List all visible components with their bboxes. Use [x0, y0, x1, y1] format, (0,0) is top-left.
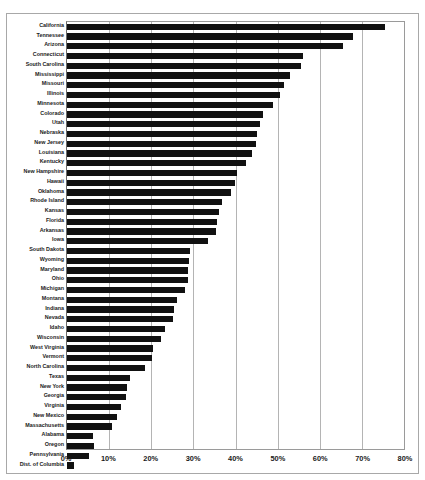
- x-axis-tick-label: 20%: [143, 454, 158, 463]
- bar: [67, 121, 260, 127]
- plot-wrapper: CaliforniaTennesseeArizonaConnecticutSou…: [7, 14, 418, 473]
- bar-row: Iowa: [67, 237, 404, 247]
- bar-row-label: California: [39, 21, 64, 31]
- bar-row-label: Mississippi: [35, 70, 64, 80]
- bar-row: Illinois: [67, 90, 404, 100]
- bar-row-label: Dist. of Columbia: [20, 460, 64, 470]
- bar-row: Michigan: [67, 285, 404, 295]
- bar-row: Idaho: [67, 324, 404, 334]
- bar-rows: CaliforniaTennesseeArizonaConnecticutSou…: [67, 22, 404, 449]
- bar-row: Massachusetts: [67, 422, 404, 432]
- bar-row: Oklahoma: [67, 188, 404, 198]
- bar-row: Virginia: [67, 402, 404, 412]
- bar-row: West Virginia: [67, 344, 404, 354]
- bar: [67, 82, 284, 88]
- bar: [67, 33, 353, 39]
- x-axis-tick-label: 30%: [186, 454, 201, 463]
- bar-row: Ohio: [67, 276, 404, 286]
- bar-row-label: Nevada: [45, 313, 64, 323]
- bar: [67, 267, 188, 273]
- bar-row-label: North Carolina: [27, 362, 64, 372]
- bar-row-label: New Mexico: [33, 411, 64, 421]
- bar-row-label: West Virginia: [30, 343, 64, 353]
- bar-row: Rhode Island: [67, 198, 404, 208]
- bar-row: Minnesota: [67, 100, 404, 110]
- bar-row-label: Pennsylvania: [30, 450, 64, 460]
- bar: [67, 423, 112, 429]
- bar-row: Kansas: [67, 207, 404, 217]
- bar-row-label: Texas: [49, 372, 64, 382]
- bar-row: Missouri: [67, 81, 404, 91]
- bar: [67, 258, 189, 264]
- bar-row-label: Tennessee: [37, 31, 64, 41]
- bar: [67, 150, 252, 156]
- bar-row: New Jersey: [67, 139, 404, 149]
- bar-row-label: Rhode Island: [30, 196, 64, 206]
- bar: [67, 365, 145, 371]
- bar-row: Florida: [67, 217, 404, 227]
- bar-row: Vermont: [67, 354, 404, 364]
- bar-row-label: New Hampshire: [24, 167, 64, 177]
- x-axis-tick-label: 50%: [270, 454, 285, 463]
- bar-row: New York: [67, 383, 404, 393]
- bar-row-label: Oregon: [45, 440, 64, 450]
- x-axis-tick-label: 60%: [313, 454, 328, 463]
- bar: [67, 102, 273, 108]
- bar: [67, 189, 231, 195]
- bar: [67, 287, 185, 293]
- bar-row-label: Louisiana: [39, 148, 64, 158]
- bar-row: Wyoming: [67, 256, 404, 266]
- bar-row: Nebraska: [67, 129, 404, 139]
- bar-row-label: South Dakota: [29, 245, 64, 255]
- bar-row: Kentucky: [67, 159, 404, 169]
- bar-row: Mississippi: [67, 71, 404, 81]
- bar-row-label: New Jersey: [34, 138, 64, 148]
- bar-row: Connecticut: [67, 51, 404, 61]
- bar-row-label: Illinois: [47, 89, 64, 99]
- bar: [67, 53, 303, 59]
- x-axis-tick-label: 40%: [228, 454, 243, 463]
- bar: [67, 394, 126, 400]
- bar-row: Colorado: [67, 110, 404, 120]
- bar-row: New Mexico: [67, 412, 404, 422]
- bar-row-label: Oklahoma: [38, 187, 64, 197]
- bar-row-label: Minnesota: [37, 99, 64, 109]
- bar: [67, 414, 117, 420]
- bar-row-label: Colorado: [40, 109, 64, 119]
- bar-row-label: Vermont: [42, 352, 64, 362]
- bar-row-label: Wyoming: [40, 255, 64, 265]
- bar-row: Georgia: [67, 393, 404, 403]
- x-axis-tick-label: 10%: [101, 454, 116, 463]
- bar-row-label: Connecticut: [33, 50, 64, 60]
- bar-row-label: Iowa: [52, 235, 64, 245]
- bar-row: Maryland: [67, 266, 404, 276]
- bar: [67, 238, 208, 244]
- bar: [67, 209, 219, 215]
- bar-row-label: Montana: [42, 294, 64, 304]
- bar: [67, 443, 94, 449]
- bar-row-label: Alabama: [42, 430, 64, 440]
- bar: [67, 24, 385, 30]
- bar: [67, 404, 121, 410]
- bar-row-label: New York: [40, 382, 64, 392]
- bar-row-label: Virginia: [44, 401, 64, 411]
- bar: [67, 433, 93, 439]
- bar-row: Utah: [67, 120, 404, 130]
- bar: [67, 43, 343, 49]
- bar-row-label: Wisconsin: [37, 333, 64, 343]
- x-axis-tick-label: 0%: [61, 454, 72, 463]
- bar: [67, 306, 174, 312]
- bar-row-label: Hawaii: [47, 177, 64, 187]
- bar: [67, 92, 280, 98]
- bar-row-label: Kentucky: [40, 157, 64, 167]
- bar: [67, 180, 235, 186]
- bar: [67, 63, 301, 69]
- bar-row-label: Maryland: [40, 265, 64, 275]
- bar: [67, 248, 190, 254]
- bar-row: Louisiana: [67, 149, 404, 159]
- bar: [67, 131, 257, 137]
- bar: [67, 219, 217, 225]
- bar-row: Nevada: [67, 315, 404, 325]
- bar: [67, 228, 216, 234]
- bar: [67, 326, 165, 332]
